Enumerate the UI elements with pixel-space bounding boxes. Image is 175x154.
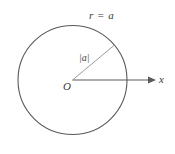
origin-label: O: [63, 81, 71, 92]
curve-equation-label: r = a: [89, 10, 114, 21]
circle-diagram-canvas: [0, 0, 175, 154]
x-axis-label: x: [159, 74, 164, 85]
figure-container: r = a |a| O x: [0, 0, 175, 154]
radius-magnitude-label: |a|: [79, 53, 90, 63]
x-axis-arrowhead: [148, 77, 156, 84]
